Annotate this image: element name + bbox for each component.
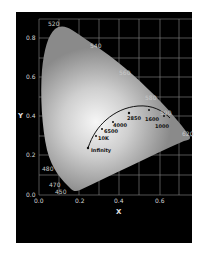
wavelength-label-580: 580: [145, 94, 157, 101]
x-tick-0.2: 0.2: [75, 197, 85, 204]
wavelength-label-540: 540: [90, 42, 102, 49]
x-tick-0.0: 0.0: [34, 197, 44, 204]
temp-label-4000: 4000: [113, 122, 127, 128]
wavelength-label-520: 520: [48, 20, 60, 27]
wavelength-label-470: 470: [49, 181, 61, 188]
temp-label-1600: 1600: [145, 116, 159, 122]
temp-label-1000: 1000: [155, 123, 169, 129]
temp-label-infinity: Infinity: [91, 147, 112, 154]
y-tick-0.6: 0.6: [26, 73, 36, 80]
wavelength-label-450: 450: [55, 188, 67, 195]
y-tick-0.8: 0.8: [26, 34, 36, 41]
x-tick-0.4: 0.4: [114, 197, 124, 204]
wavelength-label-480: 480: [42, 165, 54, 172]
wavelength-label-590: 590: [160, 109, 172, 116]
temp-label-2850: 2850: [127, 115, 141, 121]
temp-label-6500: 6500: [104, 128, 118, 134]
wavelength-label-620: 620: [182, 130, 194, 137]
temp-label-10k: 10K: [98, 135, 110, 141]
x-axis-label: X: [116, 208, 122, 216]
y-tick-0.2: 0.2: [26, 151, 36, 158]
y-tick-0.4: 0.4: [26, 112, 36, 119]
wavelength-label-560: 560: [119, 69, 131, 76]
chromaticity-chart: Infinity 10K 6500 4000 2850 1600 1000 52…: [0, 0, 203, 261]
y-axis-label: Y: [17, 112, 24, 120]
x-tick-0.6: 0.6: [155, 197, 165, 204]
